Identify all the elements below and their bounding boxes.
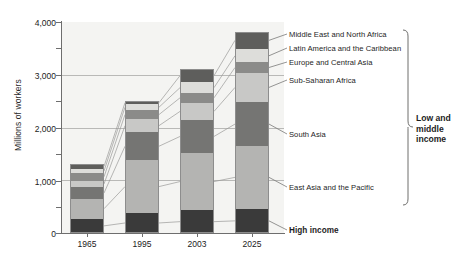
bracket-low-and-middle-income: [403, 30, 413, 205]
y-tick-1500: [56, 154, 61, 155]
bar-segment-south-asia-2003[interactable]: [180, 120, 214, 153]
bracket-label-line-2: middle: [416, 124, 451, 135]
bar-segment-sub-saharan-africa-2025[interactable]: [235, 73, 269, 103]
bar-segment-south-asia-2025[interactable]: [235, 102, 269, 146]
bar-segment-high-income-1965[interactable]: [70, 219, 104, 233]
bar-segment-latin-america-and-the-caribbean-2025[interactable]: [235, 49, 269, 62]
y-axis-label-4000: 4,000: [16, 18, 56, 28]
x-axis-label-2003: 2003: [174, 239, 220, 249]
y-tick-3000: [56, 75, 61, 76]
bar-1995[interactable]: [125, 101, 159, 233]
y-axis-label-3000: 3,000: [16, 71, 56, 81]
y-tick-1000: [56, 181, 61, 182]
y-axis-label-1000: 1,000: [16, 177, 56, 187]
bar-segment-high-income-2025[interactable]: [235, 209, 269, 233]
bar-segment-middle-east-and-north-africa-2025[interactable]: [235, 32, 269, 50]
bar-segment-high-income-1995[interactable]: [125, 213, 159, 233]
bar-segment-europe-and-central-asia-1995[interactable]: [125, 110, 159, 119]
legend-label-europe-and-central-asia: Europe and Central Asia: [289, 58, 372, 67]
x-tick-1995: [142, 233, 143, 237]
bar-segment-sub-saharan-africa-2003[interactable]: [180, 103, 214, 120]
x-axis-label-2025: 2025: [229, 239, 275, 249]
bar-segment-latin-america-and-the-caribbean-2003[interactable]: [180, 82, 214, 93]
x-tick-2025: [252, 233, 253, 237]
bar-segment-east-asia-and-the-pacific-1965[interactable]: [70, 199, 104, 219]
y-axis-label-2000: 2,000: [16, 124, 56, 134]
y-tick-2000: [56, 128, 61, 129]
x-tick-2003: [197, 233, 198, 237]
plot-area: [62, 22, 284, 233]
bar-segment-high-income-2003[interactable]: [180, 210, 214, 233]
bar-segment-europe-and-central-asia-1965[interactable]: [70, 173, 104, 180]
legend-label-latin-america-and-the-caribbean: Latin America and the Caribbean: [289, 44, 401, 53]
x-axis-label-1965: 1965: [64, 239, 110, 249]
y-tick-4000: [56, 22, 61, 23]
y-tick-2500: [56, 101, 61, 102]
legend-label-south-asia: South Asia: [289, 130, 326, 139]
bar-2003[interactable]: [180, 69, 214, 233]
x-axis-label-1995: 1995: [119, 239, 165, 249]
bar-segment-sub-saharan-africa-1995[interactable]: [125, 119, 159, 132]
bracket-label-low-and-middle-income: Low and middle income: [416, 113, 451, 145]
bar-segment-east-asia-and-the-pacific-1995[interactable]: [125, 160, 159, 213]
bar-segment-south-asia-1995[interactable]: [125, 132, 159, 160]
legend-label-high-income: High income: [289, 226, 339, 235]
legend-label-sub-saharan-africa: Sub-Saharan Africa: [289, 76, 356, 85]
bar-1965[interactable]: [70, 164, 104, 233]
x-tick-1965: [87, 233, 88, 237]
y-tick-0: [56, 233, 61, 234]
bracket-label-line-1: Low and: [416, 113, 451, 124]
bar-segment-south-asia-1965[interactable]: [70, 187, 104, 198]
y-tick-500: [56, 207, 61, 208]
bar-segment-middle-east-and-north-africa-2003[interactable]: [180, 69, 214, 82]
legend-label-east-asia-and-the-pacific: East Asia and the Pacific: [289, 183, 374, 192]
y-tick-3500: [56, 48, 61, 49]
bar-2025[interactable]: [235, 32, 269, 233]
bar-segment-east-asia-and-the-pacific-2003[interactable]: [180, 153, 214, 210]
bar-segment-europe-and-central-asia-2025[interactable]: [235, 62, 269, 72]
bar-segment-east-asia-and-the-pacific-2025[interactable]: [235, 146, 269, 209]
bar-segment-sub-saharan-africa-1965[interactable]: [70, 181, 104, 188]
bar-segment-europe-and-central-asia-2003[interactable]: [180, 93, 214, 103]
bracket-label-line-3: income: [416, 134, 451, 145]
legend-label-middle-east-and-north-africa: Middle East and North Africa: [289, 30, 387, 39]
y-axis-labels: 4,000 3,000 2,000 1,000 0: [10, 0, 56, 270]
y-axis-label-0: 0: [16, 229, 56, 239]
chart-container: Millions of workers 4,000 3,000 2,000 1,…: [0, 0, 460, 270]
